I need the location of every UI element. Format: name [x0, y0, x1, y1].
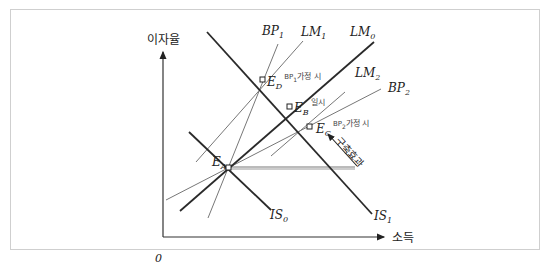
is0-curve	[189, 132, 271, 210]
label-bp1: BP1	[261, 24, 284, 40]
point-ed	[260, 77, 265, 82]
point-ea	[226, 165, 231, 170]
label-ea: EA	[211, 155, 227, 171]
y-axis-label: 이자율	[147, 33, 180, 47]
point-ec	[307, 124, 312, 129]
label-lm1: LM1	[300, 25, 326, 41]
x-axis-label: 소득	[392, 231, 414, 245]
crowding-out-label: 구축효과	[334, 135, 366, 169]
origin-label: 0	[155, 252, 162, 265]
ea-horizontal-line	[229, 167, 355, 169]
label-is0: IS0	[269, 208, 288, 224]
label-lm0: LM0	[349, 25, 375, 41]
label-bp2: BP2	[387, 81, 410, 97]
label-is1: IS1	[373, 209, 392, 225]
bp1-curve	[208, 44, 278, 218]
point-eb	[287, 104, 292, 109]
lm1-curve	[196, 41, 303, 162]
is-lm-bp-diagram: 이자율 소득 0 구축효과 BP1	[0, 0, 551, 267]
label-lm2: LM2	[354, 66, 380, 82]
